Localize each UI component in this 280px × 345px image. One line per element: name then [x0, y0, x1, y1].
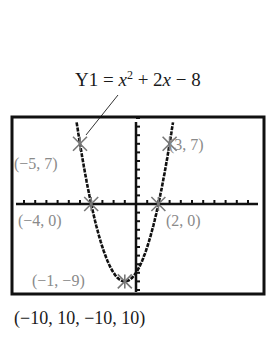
point-markers [73, 137, 177, 289]
label-point-neg4-0: (−4, 0) [18, 212, 62, 230]
graph-screen: (−5, 7) (3, 7) (−4, 0) (2, 0) (−1, −9) [0, 0, 280, 345]
label-point-3-7: (3, 7) [169, 136, 204, 154]
label-point-neg5-7: (−5, 7) [14, 155, 58, 173]
window-settings-label: (−10, 10, −10, 10) [14, 308, 145, 329]
label-point-2-0: (2, 0) [166, 212, 201, 230]
leader-line [86, 95, 118, 135]
label-point-vertex: (−1, −9) [32, 272, 85, 290]
